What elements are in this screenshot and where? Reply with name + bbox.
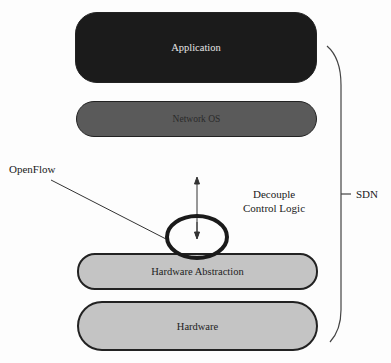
ellipse-layer <box>0 0 391 363</box>
decouple-line-2: Control Logic <box>243 201 305 215</box>
decouple-line-1: Decouple <box>243 187 305 201</box>
openflow-label: OpenFlow <box>9 163 55 175</box>
decouple-control-logic-label: Decouple Control Logic <box>243 187 305 215</box>
sdn-label: SDN <box>356 188 378 200</box>
